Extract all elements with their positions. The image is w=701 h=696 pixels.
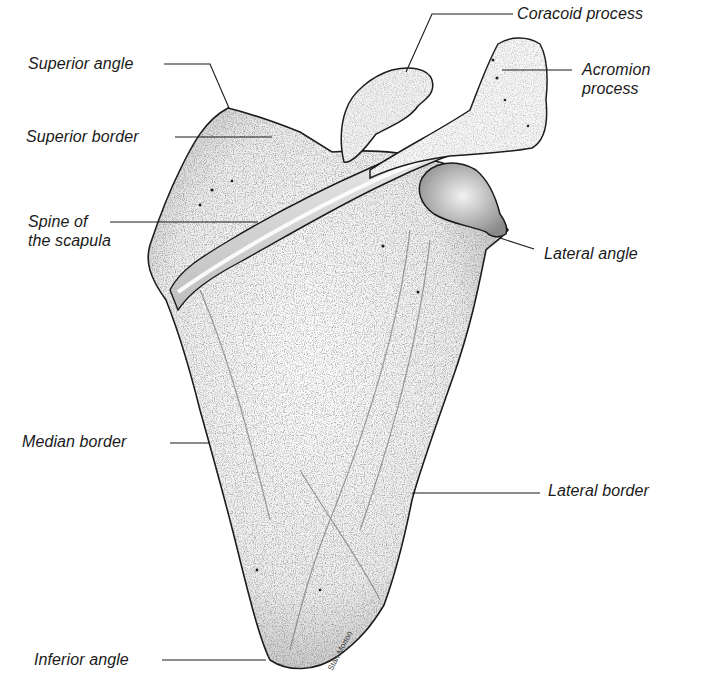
leader-superior-angle (164, 64, 229, 108)
label-coracoid-process: Coracoid process (517, 4, 643, 23)
scapula-diagram: Coracoid process Superior angle Acromion… (0, 0, 701, 696)
label-superior-angle: Superior angle (28, 54, 133, 73)
leader-lateral-angle (500, 238, 534, 249)
scapula-illustration (0, 0, 701, 696)
label-median-border: Median border (22, 432, 126, 451)
label-spine-of-the-scapula: Spine of the scapula (28, 212, 111, 250)
label-lateral-angle: Lateral angle (544, 244, 638, 263)
label-lateral-border: Lateral border (548, 481, 649, 500)
label-inferior-angle: Inferior angle (34, 650, 129, 669)
label-acromion-process: Acromion process (582, 60, 650, 98)
label-superior-border: Superior border (26, 127, 139, 146)
